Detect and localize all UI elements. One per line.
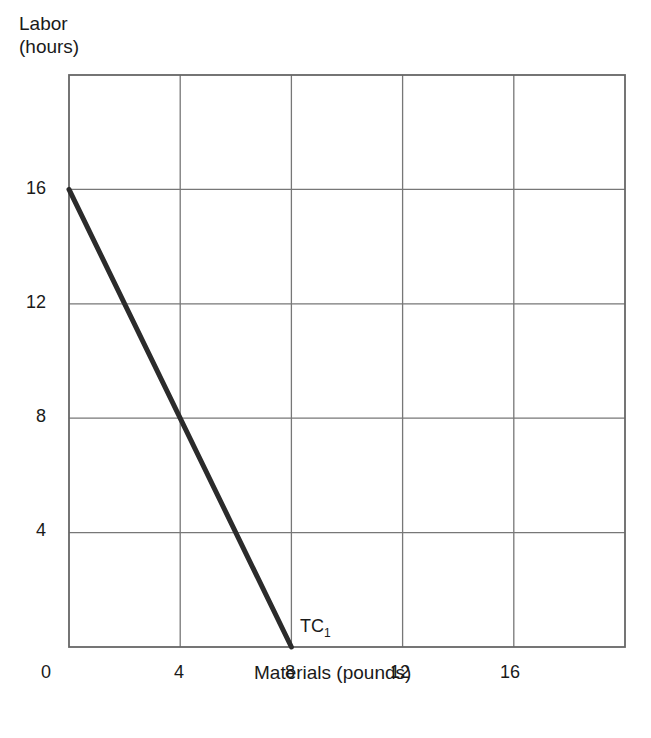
x-axis-label: Materials (pounds) — [254, 662, 411, 684]
x-tick-0: 0 — [41, 662, 51, 683]
series-label-main: TC — [300, 616, 324, 636]
x-tick-4: 4 — [174, 662, 184, 683]
x-tick-16: 16 — [500, 662, 520, 683]
series-label-tc1: TC1 — [300, 616, 331, 640]
y-tick-4: 4 — [36, 520, 46, 541]
series-label-sub: 1 — [324, 626, 331, 640]
y-tick-8: 8 — [36, 406, 46, 427]
y-tick-12: 12 — [26, 292, 46, 313]
y-tick-16: 16 — [26, 178, 46, 199]
